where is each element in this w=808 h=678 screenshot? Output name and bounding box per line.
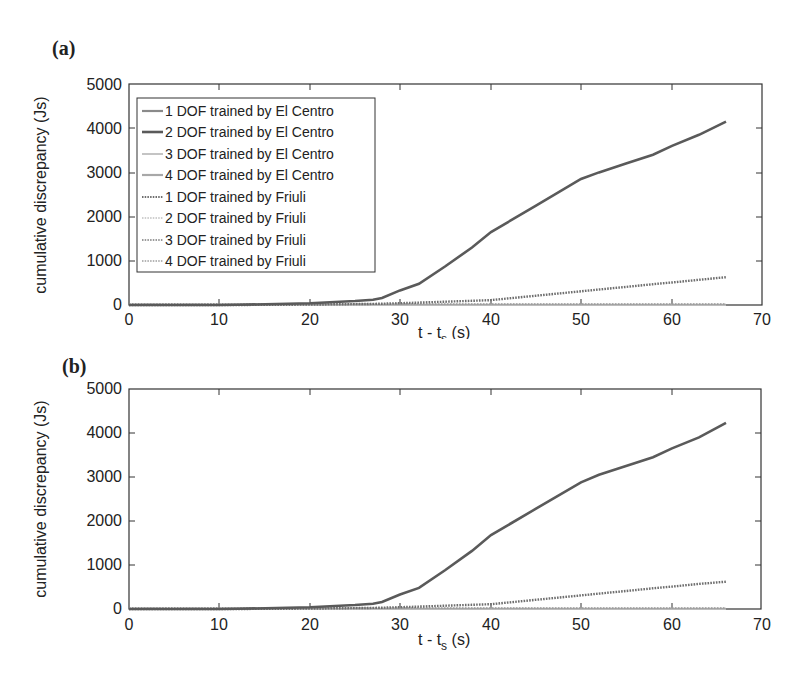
svg-text:3000: 3000 [86, 468, 122, 485]
panel-label-b: (b) [62, 355, 86, 378]
svg-text:60: 60 [663, 616, 681, 633]
legend-item: 1 DOF trained by El Centro [142, 103, 334, 119]
panel-a: (a) cumulative discrepancy (Js) 0 1000 2… [0, 0, 808, 339]
svg-text:20: 20 [301, 311, 319, 328]
y-axis-label: cumulative discrepancy (Js) [32, 96, 49, 293]
plot-area-b [129, 389, 761, 609]
panel-label-a: (a) [52, 37, 75, 60]
svg-text:1000: 1000 [86, 252, 122, 269]
legend-item: 3 DOF trained by El Centro [142, 146, 334, 162]
svg-text:70: 70 [753, 616, 771, 633]
legend: 1 DOF trained by El Centro 2 DOF trained… [137, 98, 375, 272]
svg-text:5000: 5000 [86, 76, 122, 93]
legend-item: 4 DOF trained by Friuli [142, 253, 306, 269]
legend-item: 4 DOF trained by El Centro [142, 167, 334, 183]
svg-text:1 DOF trained by El Centro: 1 DOF trained by El Centro [165, 103, 334, 119]
svg-text:30: 30 [391, 616, 409, 633]
legend-item: 2 DOF trained by Friuli [142, 210, 306, 226]
svg-text:4 DOF trained by Friuli: 4 DOF trained by Friuli [165, 253, 306, 269]
svg-text:4 DOF trained by El Centro: 4 DOF trained by El Centro [165, 167, 334, 183]
svg-text:2 DOF trained by El Centro: 2 DOF trained by El Centro [165, 124, 334, 140]
svg-text:40: 40 [482, 616, 500, 633]
chart-b-svg: (b) cumulative discrepancy (Js) 0 1000 2… [0, 339, 808, 678]
svg-text:50: 50 [572, 311, 590, 328]
y-tick-labels: 0 1000 2000 3000 4000 5000 [86, 76, 122, 313]
series-elcentro-2dof-b [129, 423, 726, 609]
svg-text:50: 50 [572, 616, 590, 633]
panel-b: (b) cumulative discrepancy (Js) 0 1000 2… [0, 339, 808, 678]
y-axis-label: cumulative discrepancy (Js) [32, 400, 49, 597]
svg-text:60: 60 [663, 311, 681, 328]
svg-text:0: 0 [125, 616, 134, 633]
svg-text:10: 10 [210, 616, 228, 633]
svg-text:0: 0 [113, 600, 122, 617]
legend-item: 1 DOF trained by Friuli [142, 189, 306, 205]
svg-text:10: 10 [210, 311, 228, 328]
x-axis-label: t - ts (s) [418, 631, 470, 653]
svg-text:40: 40 [482, 311, 500, 328]
svg-text:1000: 1000 [86, 556, 122, 573]
legend-item: 3 DOF trained by Friuli [142, 232, 306, 248]
svg-text:4000: 4000 [86, 424, 122, 441]
ticks-b [129, 389, 761, 609]
svg-text:20: 20 [301, 616, 319, 633]
svg-text:3 DOF trained by El Centro: 3 DOF trained by El Centro [165, 146, 334, 162]
svg-text:70: 70 [753, 311, 771, 328]
svg-text:1 DOF trained by Friuli: 1 DOF trained by Friuli [165, 189, 306, 205]
svg-text:2000: 2000 [86, 208, 122, 225]
svg-text:0: 0 [113, 296, 122, 313]
x-axis-label: t - ts (s) [418, 324, 470, 339]
svg-text:3000: 3000 [86, 164, 122, 181]
svg-text:30: 30 [391, 311, 409, 328]
svg-text:2000: 2000 [86, 512, 122, 529]
legend-item: 2 DOF trained by El Centro [142, 124, 334, 140]
svg-text:0: 0 [125, 311, 134, 328]
svg-text:2 DOF trained by Friuli: 2 DOF trained by Friuli [165, 210, 306, 226]
y-tick-labels: 0 1000 2000 3000 4000 5000 [86, 380, 122, 617]
chart-a-svg: (a) cumulative discrepancy (Js) 0 1000 2… [0, 0, 808, 339]
svg-text:3 DOF trained by Friuli: 3 DOF trained by Friuli [165, 232, 306, 248]
svg-text:4000: 4000 [86, 120, 122, 137]
svg-text:5000: 5000 [86, 380, 122, 397]
